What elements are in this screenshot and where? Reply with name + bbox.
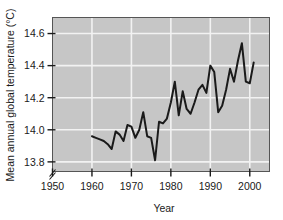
temperature-line-chart: 13.814.014.214.414.6 1950196019701980199… <box>0 0 283 220</box>
y-tick-label: 14.0 <box>24 124 45 136</box>
x-tick-label: 2000 <box>238 180 262 192</box>
x-tick-label: 1990 <box>199 180 223 192</box>
y-axis-tick-labels: 13.814.014.214.414.6 <box>24 27 45 167</box>
x-tick-label: 1980 <box>159 180 183 192</box>
x-tick-label: 1970 <box>120 180 144 192</box>
y-tick-label: 13.8 <box>24 156 45 168</box>
y-tick-label: 14.6 <box>24 27 45 39</box>
y-axis-title: Mean annual global temperature (°C) <box>4 9 16 182</box>
chart-figure: 13.814.014.214.414.6 1950196019701980199… <box>0 0 283 220</box>
y-tick-label: 14.2 <box>24 92 45 104</box>
y-tick-label: 14.4 <box>24 59 45 71</box>
x-axis-tick-labels: 195019601970198019902000 <box>41 180 262 192</box>
plot-area-background <box>53 18 270 172</box>
x-tick-label: 1950 <box>41 180 65 192</box>
x-axis-title: Year <box>153 202 175 214</box>
x-tick-label: 1960 <box>80 180 104 192</box>
